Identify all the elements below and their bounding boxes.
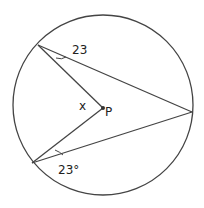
circle-geometry-diagram: 23 23° x P [0, 0, 204, 208]
angle-label-top: 23 [72, 43, 87, 57]
radius-a-p [38, 45, 103, 108]
chord-a-b [38, 45, 192, 112]
angle-arc-top [56, 57, 66, 59]
center-label-p: P [105, 105, 112, 119]
radius-c-p [32, 108, 103, 163]
chord-c-b [32, 112, 192, 163]
angle-label-x: x [79, 99, 86, 113]
circle [13, 15, 193, 195]
angle-label-bottom: 23° [58, 163, 79, 177]
